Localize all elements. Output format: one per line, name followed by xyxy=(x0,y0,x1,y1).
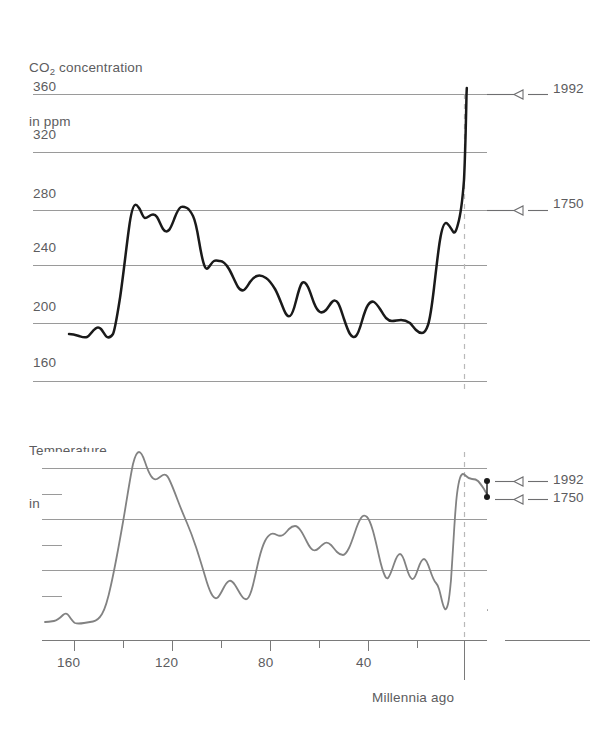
annotations-co2 xyxy=(487,90,548,215)
annotation-arrowhead-co2-1992 xyxy=(514,90,523,99)
annotation-arrowhead-co2-1750 xyxy=(514,206,523,215)
temperature-trace-group xyxy=(42,452,487,640)
co2-curve xyxy=(69,88,467,337)
temperature-panel-canvas xyxy=(43,452,487,640)
annotation-arrowhead-temp-1992 xyxy=(514,477,523,486)
co2-gridlines xyxy=(33,95,487,382)
chart-vector-layer xyxy=(0,0,601,739)
annotation-arrowhead-temp-1750 xyxy=(514,495,523,504)
climate-chart-figure: CO2 concentration in ppm Temperature in … xyxy=(0,0,601,739)
annotations-temperature xyxy=(495,477,548,504)
co2-curve-group xyxy=(69,88,467,337)
